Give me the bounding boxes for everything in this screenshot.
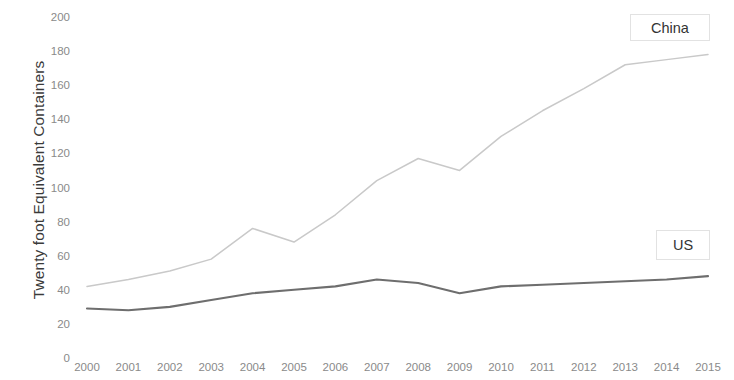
series-label-china: China: [630, 14, 710, 41]
series-line-us: [87, 276, 708, 310]
plot-area: [0, 0, 734, 380]
line-chart: Twenty foot Equivalent Containers 020406…: [0, 0, 734, 380]
series-label-us: US: [656, 230, 710, 260]
series-line-china: [87, 55, 708, 287]
